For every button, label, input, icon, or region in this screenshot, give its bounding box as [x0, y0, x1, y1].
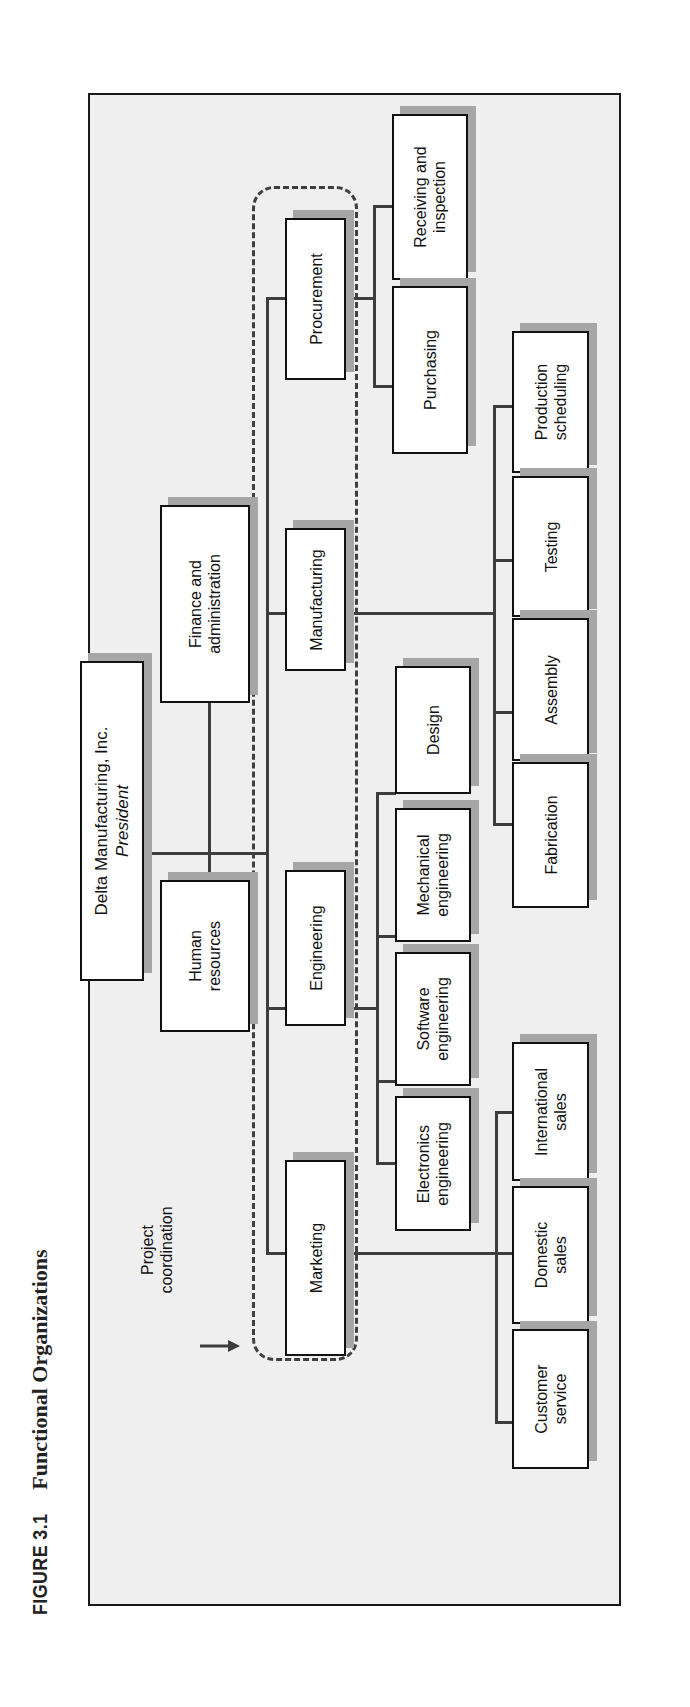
- connector: [266, 1007, 286, 1010]
- president-title: President: [112, 727, 133, 916]
- connector: [493, 559, 513, 562]
- procurement-box: Procurement: [285, 218, 346, 380]
- connector: [345, 1007, 378, 1010]
- production-scheduling-box: Productionscheduling: [512, 331, 589, 473]
- connector: [495, 1111, 513, 1114]
- human-resources-box: Humanresources: [160, 880, 250, 1032]
- connector: [495, 1421, 513, 1424]
- connector: [493, 405, 496, 825]
- international-sales-box: Internationalsales: [512, 1042, 589, 1181]
- connector: [495, 1111, 498, 1423]
- connector: [208, 702, 211, 882]
- connector: [266, 297, 286, 300]
- manufacturing-box: Manufacturing: [285, 528, 346, 671]
- engineering-box: Engineering: [285, 870, 346, 1026]
- connector: [493, 711, 513, 714]
- connector: [376, 792, 379, 1164]
- connector: [143, 852, 268, 855]
- domestic-sales-box: Domesticsales: [512, 1186, 589, 1324]
- connector: [493, 405, 513, 408]
- connector: [345, 297, 375, 300]
- marketing-box: Marketing: [285, 1160, 346, 1356]
- connector: [373, 205, 393, 208]
- company-name: Delta Manufacturing, Inc.: [92, 727, 111, 916]
- figure-number: FIGURE 3.1: [28, 1514, 52, 1615]
- assembly-box: Assembly: [512, 618, 589, 761]
- design-box: Design: [395, 666, 471, 794]
- fabrication-box: Fabrication: [512, 762, 589, 908]
- customer-service-box: Customerservice: [512, 1329, 589, 1469]
- connector: [373, 205, 376, 387]
- connector: [493, 823, 513, 826]
- connector: [373, 385, 393, 388]
- connector: [345, 1252, 497, 1255]
- mechanical-engineering-box: Mechanicalengineering: [395, 808, 471, 942]
- receiving-inspection-box: Receiving andinspection: [392, 114, 468, 280]
- figure-caption: FIGURE 3.1 Functional Organizations: [25, 1235, 55, 1615]
- connector: [345, 612, 495, 615]
- software-engineering-box: Softwareengineering: [395, 952, 471, 1086]
- president-box: Delta Manufacturing, Inc. President: [80, 661, 144, 981]
- connector: [266, 612, 286, 615]
- connector: [495, 1252, 513, 1255]
- connector: [376, 935, 396, 938]
- project-coordination-label: Project coordination: [138, 1195, 188, 1305]
- connector: [376, 1080, 396, 1083]
- connector: [266, 298, 269, 1253]
- finance-administration-box: Finance andadministration: [160, 505, 250, 703]
- right-arrow-icon: [200, 1340, 240, 1352]
- purchasing-box: Purchasing: [392, 286, 468, 454]
- figure-title: Functional Organizations: [27, 1249, 53, 1489]
- testing-box: Testing: [512, 476, 589, 617]
- connector: [266, 1252, 286, 1255]
- connector: [376, 1162, 396, 1165]
- electronics-engineering-box: Electronicsengineering: [395, 1096, 471, 1231]
- connector: [376, 792, 396, 795]
